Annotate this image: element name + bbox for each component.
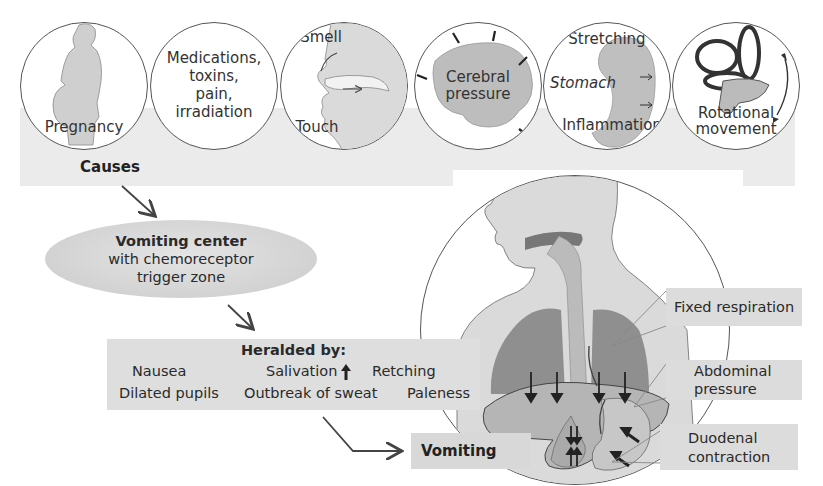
mechanism-abdominal-pressure: Abdominal pressure [666,360,802,400]
heralded-by-box: Heralded by: Nausea Salivation Retching … [107,339,480,410]
mechanism-label-line: pressure [694,380,757,398]
label-pointer-lines [0,0,823,486]
mechanism-duodenal-contraction: Duodenal contraction [660,424,798,470]
symptom-paleness: Paleness [407,385,470,401]
mechanism-label: Fixed respiration [674,298,794,316]
vomiting-label: Vomiting [421,442,497,460]
symptom-outbreak-of-sweat: Outbreak of sweat [244,385,377,401]
up-arrow-icon [341,364,351,380]
symptom-dilated-pupils: Dilated pupils [119,385,219,401]
mechanism-label-line: contraction [688,448,770,466]
vomiting-result-box: Vomiting [411,433,531,469]
mechanism-label-line: Abdominal [694,362,771,380]
heralded-by-title: Heralded by: [107,342,480,358]
symptom-salivation: Salivation [266,363,337,379]
mechanism-fixed-respiration: Fixed respiration [666,288,802,326]
symptom-retching: Retching [372,363,436,379]
symptom-nausea: Nausea [132,363,186,379]
mechanism-label-line: Duodenal [688,429,757,447]
